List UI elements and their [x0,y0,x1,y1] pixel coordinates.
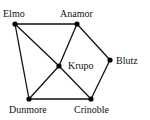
node-blutz [107,57,112,62]
label-crinoble: Crinoble [74,104,110,115]
node-crinoble [88,96,93,101]
label-blutz: Blutz [116,55,138,66]
label-dunmore: Dunmore [9,104,47,115]
node-dunmore [26,96,31,101]
label-anamor: Anamor [60,8,93,19]
edge-anamor-blutz [77,24,110,60]
node-elmo [12,21,17,26]
edge-krupo-dunmore [29,66,59,99]
label-krupo: Krupo [68,60,94,71]
edges [15,24,110,99]
edge-blutz-crinoble [91,60,110,99]
node-anamor [74,21,79,26]
graph-diagram: ElmoAnamorKrupoBlutzDunmoreCrinoble [0,0,150,120]
node-krupo [56,63,61,68]
label-elmo: Elmo [3,8,25,19]
